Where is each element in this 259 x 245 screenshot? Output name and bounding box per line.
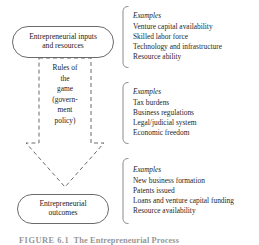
example-item: Business regulations bbox=[133, 108, 196, 118]
example-item: Skilled labor force bbox=[133, 32, 222, 42]
example-item: Resource availability bbox=[133, 206, 234, 216]
examples-heading: Examples bbox=[133, 12, 222, 21]
examples-heading: Examples bbox=[133, 166, 234, 175]
example-item: Technology and infrastructure bbox=[133, 42, 222, 52]
figure-caption: FIGURE 6.1 The Entrepreneurial Process bbox=[19, 236, 249, 245]
examples-column: Examples Venture capital availability Sk… bbox=[122, 0, 259, 228]
examples-body: Examples New business formation Patents … bbox=[129, 158, 234, 224]
example-item: Economic freedom bbox=[133, 128, 196, 138]
example-item: New business formation bbox=[133, 176, 234, 186]
examples-body: Examples Venture capital availability Sk… bbox=[129, 6, 222, 68]
example-item: Venture capital availability bbox=[133, 22, 222, 32]
flow-node-outcomes-label: Entrepreneurial outcomes bbox=[34, 200, 91, 217]
bracket-icon bbox=[122, 6, 129, 68]
examples-body: Examples Tax burdens Business regulation… bbox=[129, 82, 196, 144]
example-item: Resource ability bbox=[133, 52, 222, 62]
bracket-icon bbox=[122, 158, 129, 224]
figure-caption-title: The Entrepreneurial Process bbox=[74, 236, 180, 245]
example-item: Legal/judicial system bbox=[133, 118, 196, 128]
example-item: Loans and venture capital funding bbox=[133, 196, 234, 206]
flow-node-entrepreneurial-outcomes: Entrepreneurial outcomes bbox=[17, 194, 109, 224]
example-item: Tax burdens bbox=[133, 98, 196, 108]
entrepreneurial-process-figure: Entrepreneurial inputs and resources Rul… bbox=[0, 0, 259, 245]
examples-group-inputs: Examples Venture capital availability Sk… bbox=[122, 6, 222, 68]
examples-group-outcomes: Examples New business formation Patents … bbox=[122, 158, 234, 224]
rules-of-the-game-label: Rules of the game (govern- ment policy) bbox=[31, 63, 99, 126]
flow-node-entrepreneurial-inputs: Entrepreneurial inputs and resources bbox=[12, 26, 114, 58]
flow-node-inputs-label: Entrepreneurial inputs and resources bbox=[24, 33, 102, 50]
figure-caption-label: FIGURE 6.1 bbox=[19, 236, 69, 245]
example-item: Patents issued bbox=[133, 186, 234, 196]
examples-heading: Examples bbox=[133, 88, 196, 97]
bracket-icon bbox=[122, 82, 129, 144]
examples-group-rules: Examples Tax burdens Business regulation… bbox=[122, 82, 196, 144]
